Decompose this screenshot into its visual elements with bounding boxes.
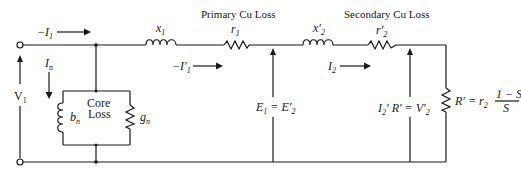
load-resistance-label: R′ = r2: [454, 94, 488, 110]
bn-label: bn: [70, 110, 80, 126]
e1-e2-label: E1 = E′2: [255, 100, 295, 116]
i2-label: I2: [327, 59, 336, 75]
i2-arrow-icon: [340, 63, 371, 70]
equivalent-circuit-diagram: V1 −I1 In bn gn Core Loss: [0, 0, 521, 175]
input-terminal-top: [17, 42, 23, 48]
x1-inductor-icon: [146, 40, 176, 45]
r1-label: r1: [231, 22, 240, 38]
r2-prime-resistor-icon: [368, 41, 396, 49]
r2-prime-label: r′2: [376, 23, 387, 39]
i1-prime-label: −I′1: [172, 59, 191, 75]
gn-label: gn: [140, 110, 150, 126]
load-denominator: S: [503, 101, 509, 115]
i1-arrow-icon: [57, 29, 91, 36]
input-terminal-bottom: [17, 159, 23, 165]
secondary-cu-loss-header: Secondary Cu Loss: [344, 8, 430, 20]
core-loss-label-2: Loss: [88, 107, 111, 121]
i2-r-v2-label: I2′ R′ = V′2: [377, 101, 430, 117]
r1-resistor-icon: [224, 41, 249, 49]
i1-prime-arrow-icon: [193, 63, 223, 70]
x1-label: x1: [155, 21, 165, 37]
bn-inductor-icon: [58, 103, 63, 132]
load-numerator: 1 − S: [496, 87, 521, 101]
load-resistor-icon: [442, 88, 450, 112]
gn-resistor-icon: [126, 105, 134, 129]
in-arrow-icon: [46, 72, 53, 99]
i1-label: −I1: [37, 25, 53, 41]
primary-cu-loss-header: Primary Cu Loss: [201, 8, 276, 20]
x2-prime-label: x′2: [312, 21, 325, 37]
in-label: In: [44, 56, 53, 72]
x2-prime-inductor-icon: [303, 40, 333, 45]
v1-voltage-indicator: [17, 55, 23, 158]
v1-label: V1: [14, 89, 27, 105]
